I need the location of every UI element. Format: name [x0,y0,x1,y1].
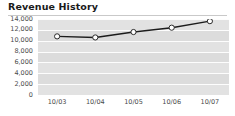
x-axis-tick-label: 10/06 [162,98,181,106]
data-point-marker [169,25,174,30]
data-point-marker [55,34,60,39]
page-title: Revenue History [8,1,98,13]
y-axis-tick-label: 4,000 [14,70,33,77]
title-divider [8,15,227,16]
y-axis-tick-label: 2,000 [14,81,33,88]
y-axis-tick-label: 0 [29,92,33,99]
x-axis-tick-labels: 10/0310/0410/0510/0610/07 [38,98,229,110]
x-axis-tick-label: 10/05 [124,98,143,106]
y-axis-tick-label: 14,000 [10,16,33,23]
x-axis-tick-label: 10/03 [48,98,67,106]
y-axis-tick-label: 10,000 [10,37,33,44]
data-point-marker [93,35,98,40]
y-axis-tick-label: 12,000 [10,26,33,33]
revenue-line-series [38,19,229,95]
data-point-marker [131,29,136,34]
revenue-history-chart-widget: Revenue History 02,0004,0006,0008,00010,… [0,0,235,116]
plot-area [38,19,229,95]
data-point-marker [207,19,212,24]
y-axis-tick-labels: 02,0004,0006,0008,00010,00012,00014,000 [0,19,35,95]
y-axis-tick-label: 6,000 [14,59,33,66]
x-axis-tick-label: 10/04 [86,98,105,106]
x-axis-tick-label: 10/07 [201,98,220,106]
y-axis-tick-label: 8,000 [14,48,33,55]
